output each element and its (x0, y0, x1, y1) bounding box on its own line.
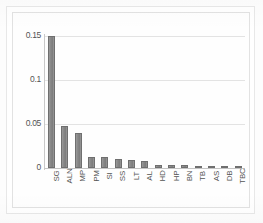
bar-slot (205, 36, 218, 168)
x-tick-slot: LT (125, 172, 138, 218)
x-tick-slot: TBC (232, 172, 245, 218)
bar-SS[interactable] (115, 159, 122, 168)
x-tick-label-TBC: TBC (238, 168, 247, 183)
x-tick-slot: HP (165, 172, 178, 218)
bar-TB[interactable] (195, 166, 202, 168)
x-axis-line (44, 168, 245, 169)
x-tick-slot: AS (205, 172, 218, 218)
bar-slot (218, 36, 231, 168)
x-tick-slot: HD (152, 172, 165, 218)
x-tick-slot: SI (98, 172, 111, 218)
y-tick-label-0.15: 0.15 (0, 31, 41, 40)
bar-SG[interactable] (48, 36, 55, 168)
chart-figure: 00.050.10.15 SGALNMPPMSISSLTALHDHPBNTBAS… (0, 0, 263, 223)
bar-slot (45, 36, 58, 168)
x-tick-slot: SS (112, 172, 125, 218)
bar-BN[interactable] (181, 165, 188, 168)
x-tick-slot: SG (45, 172, 58, 218)
bar-slot (85, 36, 98, 168)
bar-HP[interactable] (168, 165, 175, 168)
plot-area (45, 36, 245, 168)
x-tick-slot: ALN (58, 172, 71, 218)
bar-slot (125, 36, 138, 168)
bar-ALN[interactable] (61, 126, 68, 168)
bar-AS[interactable] (208, 166, 215, 168)
bar-slot (98, 36, 111, 168)
y-tick-label-0.1: 0.1 (0, 75, 41, 84)
bar-SI[interactable] (101, 157, 108, 168)
y-tick-label-0: 0 (0, 163, 41, 172)
y-tick-label-0.05: 0.05 (0, 119, 41, 128)
x-tick-slot: MP (72, 172, 85, 218)
bar-slot (178, 36, 191, 168)
x-tick-slot: PM (85, 172, 98, 218)
bar-MP[interactable] (75, 133, 82, 168)
x-tick-slot: TB (192, 172, 205, 218)
x-tick-slot: BN (178, 172, 191, 218)
bar-slot (72, 36, 85, 168)
bar-slot (192, 36, 205, 168)
bar-slot (138, 36, 151, 168)
bar-slot (58, 36, 71, 168)
bar-slot (165, 36, 178, 168)
bar-HD[interactable] (155, 165, 162, 168)
bar-AL[interactable] (141, 161, 148, 168)
bar-slot (232, 36, 245, 168)
x-tick-slot: AL (138, 172, 151, 218)
bar-LT[interactable] (128, 160, 135, 168)
bar-DB[interactable] (221, 166, 228, 168)
bar-slot (152, 36, 165, 168)
bar-slot (112, 36, 125, 168)
bar-PM[interactable] (88, 157, 95, 168)
x-tick-slot: DB (218, 172, 231, 218)
